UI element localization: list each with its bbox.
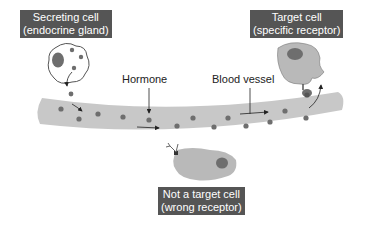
blood-vessel-label: Blood vessel (212, 73, 274, 85)
secreting-cell-label: Secreting cell (endocrine gland) (20, 10, 112, 38)
blood-vessel-shape (37, 92, 343, 130)
hormone-label: Hormone (122, 73, 167, 85)
target-cell-nucleus (287, 48, 303, 60)
non-target-cell-label-line2: (wrong receptor) (161, 201, 242, 214)
target-cell-label-line1: Target cell (253, 11, 340, 24)
diagram-stage: Secreting cell (endocrine gland) Target … (0, 0, 368, 230)
secreting-cell-label-line2: (endocrine gland) (23, 24, 109, 37)
target-cell-label: Target cell (specific receptor) (250, 10, 343, 38)
target-cell-label-line2: (specific receptor) (253, 24, 340, 37)
non-target-cell (166, 143, 236, 181)
non-target-cell-label: Not a target cell (wrong receptor) (158, 187, 245, 215)
non-target-cell-nucleus (216, 158, 228, 169)
non-target-cell-label-line1: Not a target cell (161, 188, 242, 201)
secreting-cell-label-line1: Secreting cell (23, 11, 109, 24)
wrong-receptor (166, 143, 178, 152)
secreting-cell-nucleus (52, 53, 64, 68)
target-cell (278, 43, 325, 98)
